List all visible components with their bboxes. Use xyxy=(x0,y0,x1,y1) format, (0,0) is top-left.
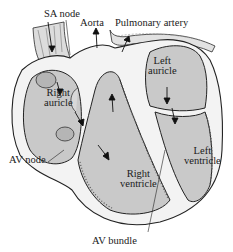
label-left-auricle-line2: auricle xyxy=(148,66,177,76)
vena-cava-opening xyxy=(36,72,56,88)
label-left-ventricle-line2: ventricle xyxy=(184,156,221,166)
label-aorta: Aorta xyxy=(80,18,104,28)
label-left-auricle: Left auricle xyxy=(148,56,177,76)
label-av-bundle: AV bundle xyxy=(92,236,137,246)
label-left-ventricle: Left ventricle xyxy=(184,146,221,166)
coronary-sinus-opening xyxy=(56,127,74,141)
label-right-auricle: Right auricle xyxy=(44,88,73,108)
label-right-ventricle: Right ventricle xyxy=(120,169,157,189)
label-av-node: AV node xyxy=(9,155,46,165)
heart-diagram xyxy=(0,0,233,252)
label-right-ventricle-line2: ventricle xyxy=(120,179,157,189)
label-sa-node: SA node xyxy=(44,9,80,19)
label-right-auricle-line2: auricle xyxy=(44,98,73,108)
label-pulmonary-artery: Pulmonary artery xyxy=(115,18,188,28)
